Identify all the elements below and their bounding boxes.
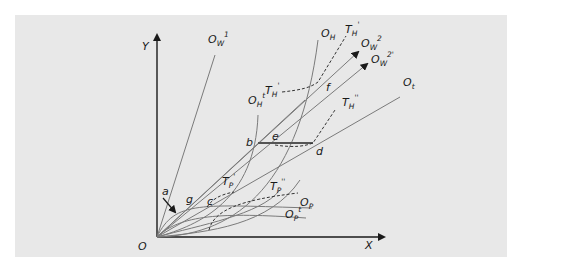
label-oht: OHt [248, 91, 266, 109]
label-f: f [326, 81, 332, 94]
curve-oht [157, 115, 258, 237]
label-op: OP [300, 196, 314, 211]
label-d: d [316, 145, 324, 158]
label-tp1: TP' [222, 172, 235, 190]
label-ow2prime: OW2' [371, 50, 394, 68]
label-y: Y [142, 40, 150, 53]
label-ow1: OW1 [208, 30, 229, 48]
label-th2: TH'' [342, 93, 359, 111]
label-b: b [246, 136, 253, 149]
label-c: c [207, 195, 213, 208]
label-tp2: TP'' [270, 177, 285, 195]
label-ow2: OW2 [361, 34, 382, 52]
label-origin: O [138, 240, 147, 253]
label-a: a [162, 185, 169, 198]
label-x: X [364, 239, 373, 252]
label-ot: Ot [403, 76, 416, 91]
edgeworth-diagram: Y X O a b c d e f g OW1 OW2 OW2' Ot OH O… [0, 0, 562, 267]
label-opt: OPt [285, 205, 302, 223]
label-th1-left: TH' [265, 81, 279, 99]
label-g: g [186, 193, 193, 206]
label-th1-top: TH' [345, 20, 359, 38]
ray-ow2prime [157, 64, 367, 237]
label-oh: OH [321, 27, 336, 42]
label-e: e [272, 130, 279, 143]
